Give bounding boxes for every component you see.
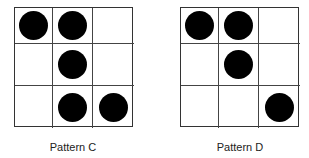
grid-cell [93,86,134,128]
pattern-d-label: Pattern D [180,141,300,153]
filled-dot-icon [99,93,128,122]
grid-cell [15,86,53,128]
pattern-c-grid [14,7,133,127]
filled-dot-icon [58,50,87,79]
filled-dot-icon [224,11,253,40]
grid-cell [93,8,134,44]
grid-cell [53,44,93,86]
grid-cell [181,8,219,44]
grid-cell [93,44,134,86]
grid-cell [259,86,300,128]
grid-cell [181,86,219,128]
grid-cell [219,44,259,86]
grid-cell [15,44,53,86]
filled-dot-icon [58,93,87,122]
filled-dot-icon [224,50,253,79]
grid-cell [259,8,300,44]
pattern-d-grid [180,7,299,127]
grid-cell [181,44,219,86]
pattern-c [14,7,134,127]
pattern-d [180,7,300,127]
pattern-c-label: Pattern C [13,141,133,153]
filled-dot-icon [265,93,294,122]
grid-cell [15,8,53,44]
filled-dot-icon [58,11,87,40]
grid-cell [259,44,300,86]
filled-dot-icon [19,11,48,40]
grid-cell [219,8,259,44]
grid-cell [53,86,93,128]
filled-dot-icon [185,11,214,40]
grid-cell [219,86,259,128]
grid-cell [53,8,93,44]
